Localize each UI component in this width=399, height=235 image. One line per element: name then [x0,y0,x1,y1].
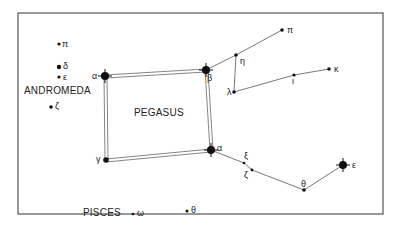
label-peg-theta: θ [301,180,306,189]
label-psc-omega: ω [137,209,144,218]
label-peg-alpha: α [217,144,222,153]
label-peg-gamma: γ [96,155,101,164]
label-and-zeta: ζ [55,102,59,111]
chart-frame [18,13,383,214]
label-peg-xi: ξ [244,152,248,161]
label-peg-lambda: λ [227,88,232,97]
label-and-epsilon: ε [63,73,67,82]
star-chart [0,0,399,235]
label-peg-kappa: κ [334,65,339,74]
label-peg-beta: β [207,74,212,83]
label-pisces: PISCES [83,208,121,218]
label-peg-pi: π [287,26,293,35]
constellation-lines [206,30,343,190]
label-pegasus: PEGASUS [134,108,184,118]
label-peg-iota: ι [292,77,294,86]
label-andromeda: ANDROMEDA [24,86,91,96]
label-peg-eta: η [240,57,245,66]
label-psc-theta: θ [191,206,196,215]
label-peg-epsilon: ε [352,161,356,170]
label-peg-zeta: ζ [244,171,248,180]
label-and-alpha: α [92,72,97,81]
label-and-delta: δ [63,62,68,71]
label-and-pi: π [62,40,68,49]
